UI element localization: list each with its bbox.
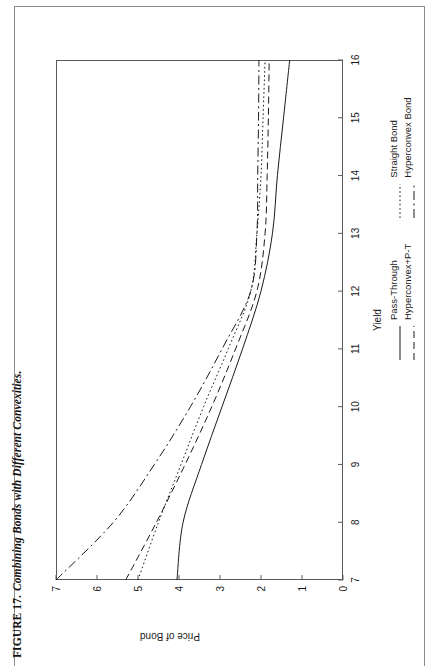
y-axis-ticks	[56, 575, 343, 580]
legend-entry: Pass-Through	[388, 244, 399, 360]
x-tick-label: 14	[350, 170, 361, 181]
legend-column-1: Pass-ThroughHyperconvex+P-T	[388, 244, 413, 360]
data-curves	[56, 60, 290, 580]
x-tick-label: 11	[350, 344, 361, 354]
x-axis-ticks	[338, 60, 343, 580]
legend-label: Hyperconvex+P-T	[402, 244, 413, 320]
legend-label: Pass-Through	[388, 260, 399, 320]
x-tick-label: 7	[350, 577, 361, 583]
legend-label: Straight Bond	[388, 120, 399, 178]
x-tick-label: 9	[350, 462, 361, 468]
y-tick-label: 4	[174, 586, 185, 598]
chart-legend: Pass-ThroughHyperconvex+P-TStraight Bond…	[388, 97, 413, 360]
legend-line-swatch	[404, 184, 412, 218]
curve-hyperconvex-bond	[56, 60, 259, 580]
y-tick-label: 2	[256, 586, 267, 598]
legend-entry: Hyperconvex+P-T	[402, 244, 413, 360]
x-tick-label: 15	[350, 112, 361, 123]
legend-entry: Hyperconvex Bond	[402, 97, 413, 217]
curve-straight-bond	[138, 60, 265, 580]
y-tick-label: 5	[133, 586, 144, 598]
y-tick-label: 0	[338, 586, 349, 598]
legend-entry: Straight Bond	[388, 97, 399, 217]
legend-line-swatch	[390, 184, 398, 218]
legend-label: Hyperconvex Bond	[402, 97, 413, 177]
x-tick-label: 16	[350, 54, 361, 65]
chart-rotation-wrapper: 78910111213141516 01234567 Yield Price o…	[0, 0, 436, 672]
y-tick-label: 6	[92, 586, 103, 598]
y-tick-label: 3	[215, 586, 226, 598]
x-tick-label: 8	[350, 519, 361, 525]
figure-page: FIGURE 17. Combining Bonds with Differen…	[0, 0, 436, 672]
y-tick-label: 7	[51, 586, 62, 598]
x-tick-label: 12	[350, 286, 361, 297]
legend-column-2: Straight BondHyperconvex Bond	[388, 97, 413, 217]
legend-line-swatch	[390, 326, 398, 360]
bond-price-yield-chart: 78910111213141516 01234567 Yield Price o…	[0, 0, 436, 672]
y-axis-title: Price of Bond	[140, 631, 200, 642]
x-tick-label: 10	[350, 401, 361, 412]
x-axis-title: Yield	[372, 309, 383, 331]
plot-canvas	[56, 60, 343, 580]
legend-line-swatch	[404, 326, 412, 360]
curve-pass-through	[177, 60, 290, 580]
curve-hyperconvex-p-t	[126, 60, 270, 580]
y-tick-label: 1	[297, 586, 308, 598]
x-tick-label: 13	[350, 228, 361, 239]
